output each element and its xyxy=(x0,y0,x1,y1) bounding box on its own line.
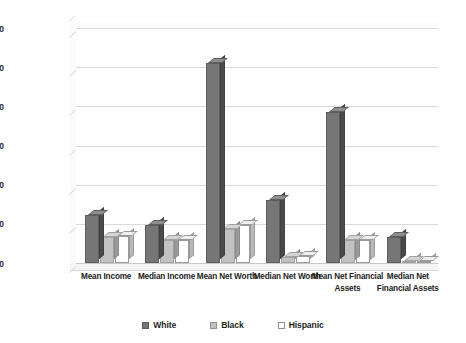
chart-legend: WhiteBlackHispanic xyxy=(0,320,466,330)
bar-white-median-net-worth xyxy=(266,200,280,263)
gridline xyxy=(76,263,438,264)
bar-face xyxy=(296,256,310,263)
bar-face xyxy=(281,257,295,263)
y-axis-tick-label: $300,000 xyxy=(0,24,4,34)
bar-hispanic-median-net-financial-assets xyxy=(417,261,431,263)
legend-swatch-icon xyxy=(210,322,217,329)
bar-top xyxy=(88,210,108,215)
bar-face xyxy=(266,200,280,263)
bar-white-mean-income xyxy=(85,215,99,263)
bar-white-median-net-financial-assets xyxy=(387,237,401,263)
bar-side xyxy=(220,55,225,259)
y-axis-tick-label: $150,000 xyxy=(0,141,4,151)
bar-top xyxy=(329,107,349,112)
bar-group xyxy=(197,28,257,263)
bar-hispanic-median-net-worth xyxy=(296,256,310,263)
legend-swatch-icon xyxy=(142,322,149,329)
legend-item-black[interactable]: Black xyxy=(210,320,243,330)
legend-item-white[interactable]: White xyxy=(142,320,176,330)
legend-swatch-icon xyxy=(278,322,285,329)
y-axis-tick-label: $0 xyxy=(0,259,4,269)
bar-group xyxy=(136,28,196,263)
legend-label: Hispanic xyxy=(289,320,324,330)
bar-top xyxy=(148,220,168,225)
bar-white-mean-net-worth xyxy=(206,63,220,263)
plot-area xyxy=(76,28,438,263)
bar-white-median-income xyxy=(145,225,159,263)
bar-black-median-net-worth xyxy=(281,257,295,263)
bar-face xyxy=(402,261,416,263)
legend-label: White xyxy=(153,320,176,330)
legend-label: Black xyxy=(221,320,243,330)
bar-group xyxy=(257,28,317,263)
bar-group xyxy=(317,28,377,263)
bar-white-mean-net-financial-assets xyxy=(326,112,340,263)
bar-side xyxy=(99,207,104,259)
y-axis-tick-label: $100,000 xyxy=(0,180,4,190)
bar-face xyxy=(326,112,340,263)
bar-face xyxy=(387,237,401,263)
y-axis-tick-label: $250,000 xyxy=(0,63,4,73)
chart-container: $0$50,000$100,000$150,000$200,000$250,00… xyxy=(0,0,466,343)
bar-top xyxy=(269,195,289,200)
bar-group xyxy=(76,28,136,263)
bar-top xyxy=(389,232,409,237)
legend-item-hispanic[interactable]: Hispanic xyxy=(278,320,324,330)
bar-face xyxy=(417,261,431,263)
bar-top xyxy=(208,58,228,63)
bar-face xyxy=(85,215,99,263)
bar-face xyxy=(206,63,220,263)
bar-face xyxy=(145,225,159,263)
bar-side xyxy=(340,104,345,259)
y-axis-tick-label: $200,000 xyxy=(0,102,4,112)
x-axis-category-label: Median Net Financial Assets xyxy=(372,271,444,294)
bar-group xyxy=(378,28,438,263)
bar-side xyxy=(280,192,285,259)
y-axis-tick-label: $50,000 xyxy=(0,219,4,229)
bar-black-median-net-financial-assets xyxy=(402,261,416,263)
chart-floor xyxy=(70,263,438,271)
